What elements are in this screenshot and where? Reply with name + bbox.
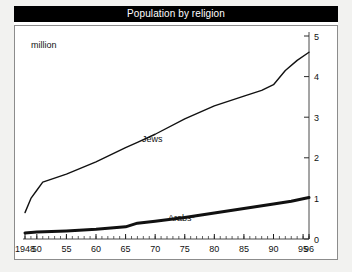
x-tick-label: 70 [150, 244, 160, 254]
chart-canvas: 01234519485055606570758085909596 [15, 26, 337, 259]
series-label-jews: Jews [142, 134, 163, 144]
y-tick-label: 3 [314, 113, 319, 123]
x-tick-label: 65 [121, 244, 131, 254]
x-tick-label: 50 [32, 244, 42, 254]
x-tick-label: 55 [61, 244, 71, 254]
series-line-jews [25, 52, 309, 212]
series-label-arabs: Arabs* [168, 213, 195, 223]
y-tick-label: 2 [314, 153, 319, 163]
y-tick-label: 5 [314, 32, 319, 42]
x-tick-label: 75 [180, 244, 190, 254]
chart-title-bar: Population by religion [14, 6, 338, 22]
x-tick-label: 96 [304, 244, 314, 254]
series-line-arabs [25, 198, 309, 233]
chart-figure: Population by religion million 012345194… [0, 0, 352, 272]
x-tick-label: 90 [268, 244, 278, 254]
chart-card: Population by religion million 012345194… [14, 6, 338, 260]
y-tick-label: 4 [314, 72, 319, 82]
plot-area: million 01234519485055606570758085909596 [14, 25, 338, 260]
y-tick-label: 1 [314, 194, 319, 204]
y-tick-label: 0 [314, 235, 319, 245]
x-tick-label: 80 [209, 244, 219, 254]
x-tick-label: 60 [91, 244, 101, 254]
x-tick-label: 85 [239, 244, 249, 254]
page-title: Population by religion [127, 6, 225, 22]
